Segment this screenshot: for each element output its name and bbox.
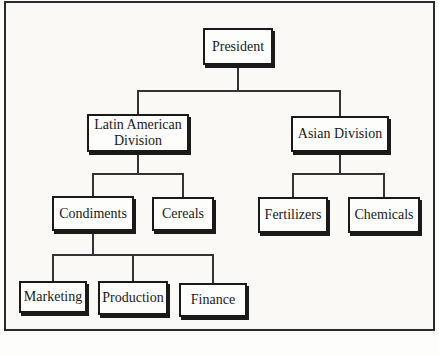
org-node-chemicals: Chemicals bbox=[348, 197, 420, 233]
connector-level1-horizontal bbox=[137, 90, 341, 92]
org-node-asian-division-label: Asian Division bbox=[298, 126, 382, 142]
org-node-chemicals-label: Chemicals bbox=[354, 207, 413, 223]
org-node-marketing-label: Marketing bbox=[24, 289, 82, 305]
org-node-production-label: Production bbox=[102, 290, 163, 306]
org-node-latin-american-division-label: Latin American Division bbox=[92, 117, 184, 149]
org-node-asian-division: Asian Division bbox=[291, 116, 389, 152]
connector-ad-drop bbox=[339, 90, 341, 116]
connector-chemicals-drop bbox=[383, 173, 385, 197]
connector-lad-horizontal bbox=[92, 173, 184, 175]
connector-fertilizers-drop bbox=[292, 173, 294, 197]
connector-ad-horizontal bbox=[292, 173, 385, 175]
org-node-fertilizers-label: Fertilizers bbox=[265, 207, 322, 223]
org-node-production: Production bbox=[98, 281, 168, 315]
org-node-finance-label: Finance bbox=[191, 292, 235, 308]
connector-lad-stem bbox=[137, 151, 139, 175]
connector-cereals-drop bbox=[182, 173, 184, 197]
connector-condiments-stem bbox=[92, 230, 94, 256]
connector-ad-stem bbox=[339, 151, 341, 175]
org-node-latin-american-division: Latin American Division bbox=[87, 114, 189, 152]
connector-finance-drop bbox=[212, 254, 214, 283]
org-node-condiments-label: Condiments bbox=[59, 206, 127, 222]
connector-production-drop bbox=[132, 254, 134, 281]
org-node-marketing: Marketing bbox=[19, 281, 87, 313]
connector-marketing-drop bbox=[52, 254, 54, 281]
org-node-president: President bbox=[203, 28, 273, 65]
org-node-cereals-label: Cereals bbox=[162, 206, 204, 222]
org-node-fertilizers: Fertilizers bbox=[258, 197, 328, 233]
org-node-president-label: President bbox=[212, 39, 264, 55]
org-node-finance: Finance bbox=[179, 283, 247, 317]
org-node-condiments: Condiments bbox=[52, 196, 134, 231]
connector-president-stem bbox=[237, 64, 239, 91]
connector-condiments-drop bbox=[92, 173, 94, 196]
org-node-cereals: Cereals bbox=[152, 197, 214, 231]
org-chart: President Latin American Division Asian … bbox=[0, 0, 439, 356]
connector-lad-drop bbox=[137, 90, 139, 114]
